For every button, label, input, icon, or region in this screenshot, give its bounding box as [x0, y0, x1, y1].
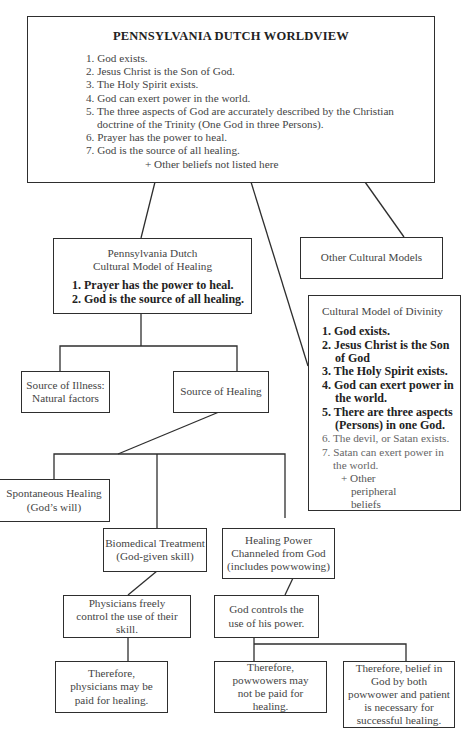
biomedical-box: Biomedical Treatment (God-given skill)	[103, 528, 207, 572]
physicians-paid-box: Therefore, physicians may be paid for he…	[55, 661, 168, 713]
source-healing-box: Source of Healing	[173, 371, 269, 413]
divinity-core-item: 4. God can exert power in the world.	[322, 379, 454, 406]
worldview-title: PENNSYLVANIA DUTCH WORLDVIEW	[48, 29, 414, 44]
other-models-box: Other Cultural Models	[300, 237, 443, 279]
god-controls-text: God controls the use of his power.	[225, 603, 308, 629]
physicians-paid-text: Therefore, physicians may be paid for he…	[66, 667, 157, 707]
connector-channeled-down	[285, 578, 293, 595]
divinity-model-title: Cultural Model of Divinity	[322, 305, 454, 318]
worldview-box: PENNSYLVANIA DUTCH WORLDVIEW 1. God exis…	[27, 16, 435, 183]
connector-worldview-to-healing	[141, 182, 155, 238]
divinity-core-item: 1. God exists.	[322, 325, 454, 338]
healing-model-title-1: Pennsylvania Dutch	[54, 247, 251, 260]
connector-god-controls-branch2	[254, 644, 406, 661]
spontaneous-line1: Spontaneous Healing	[6, 487, 101, 500]
healing-model-list: 1. Prayer has the power to heal. 2. God …	[54, 279, 251, 306]
worldview-list: 1. God exists. 2. Jesus Christ is the So…	[86, 52, 414, 158]
powwowers-not-paid-box: Therefore, powwowers may not be paid for…	[214, 661, 327, 713]
source-illness-line2: Natural factors	[32, 392, 99, 405]
channeled-line2: Channeled from God	[231, 547, 325, 560]
worldview-footer: + Other beliefs not listed here	[86, 158, 414, 171]
biomedical-line2: (God-given skill)	[116, 550, 193, 563]
connector-branch-illness	[60, 346, 237, 371]
worldview-item: 2. Jesus Christ is the Son of God.	[86, 65, 414, 78]
other-models-label: Other Cultural Models	[321, 251, 422, 264]
physicians-control-box: Physicians freely control the use of the…	[63, 595, 191, 638]
source-illness-line1: Source of Illness:	[26, 379, 104, 392]
healing-model-item: 1. Prayer has the power to heal.	[72, 279, 251, 292]
connector-biomedical-down	[128, 571, 157, 595]
divinity-footer: + Other peripheral beliefs	[332, 472, 454, 512]
divinity-model-box: Cultural Model of Divinity 1. God exists…	[308, 295, 461, 511]
divinity-peripheral-list: 6. The devil, or Satan exists. 7. Satan …	[322, 432, 454, 472]
divinity-peripheral-item: 7. Satan can exert power in the world.	[322, 446, 454, 472]
healing-model-item: 2. God is the source of all healing.	[72, 293, 251, 306]
worldview-item: 6. Prayer has the power to heal.	[86, 131, 414, 144]
divinity-core-item: 3. The Holy Spirit exists.	[322, 365, 454, 378]
worldview-item: 3. The Holy Spirit exists.	[86, 78, 414, 91]
biomedical-line1: Biomedical Treatment	[105, 537, 205, 550]
healing-model-box: Pennsylvania Dutch Cultural Model of Hea…	[53, 238, 252, 314]
channeled-line3: (includes powwowing)	[227, 560, 330, 573]
powwowers-not-paid-text: Therefore, powwowers may not be paid for…	[225, 661, 316, 714]
divinity-core-item: 5. There are three aspects (Persons) in …	[322, 406, 454, 433]
connector-worldview-to-other	[365, 182, 404, 237]
divinity-core-item: 2. Jesus Christ is the Son of God	[322, 339, 454, 366]
spontaneous-healing-box: Spontaneous Healing (God’s will)	[0, 479, 110, 522]
worldview-item: 7. God is the source of all healing.	[86, 144, 414, 157]
channeled-power-box: Healing Power Channeled from God (includ…	[222, 528, 335, 579]
worldview-item: 1. God exists.	[86, 52, 414, 65]
spontaneous-line2: (God’s will)	[27, 501, 81, 514]
divinity-core-list: 1. God exists. 2. Jesus Christ is the So…	[322, 325, 454, 432]
connector-source-healing-down	[118, 412, 219, 454]
divinity-peripheral-item: 6. The devil, or Satan exists.	[322, 432, 454, 445]
worldview-item: 4. God can exert power in the world.	[86, 92, 414, 105]
belief-necessary-text: Therefore, belief in God by both powwowe…	[347, 662, 451, 728]
channeled-line1: Healing Power	[245, 534, 312, 547]
source-healing-label: Source of Healing	[180, 385, 261, 398]
physicians-control-text: Physicians freely control the use of the…	[72, 597, 182, 637]
god-controls-box: God controls the use of his power.	[214, 595, 319, 638]
source-illness-box: Source of Illness: Natural factors	[21, 371, 110, 413]
healing-model-title-2: Cultural Model of Healing	[54, 260, 251, 273]
belief-necessary-box: Therefore, belief in God by both powwowe…	[343, 661, 455, 728]
worldview-item: 5. The three aspects of God are accurate…	[86, 105, 414, 131]
